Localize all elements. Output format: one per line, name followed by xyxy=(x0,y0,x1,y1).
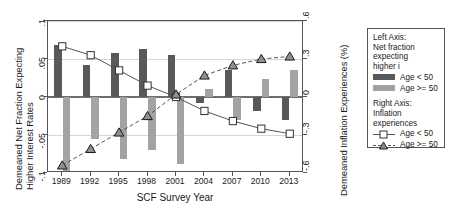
chart-figure: Demeaned Net Fraction Expecting Higher I… xyxy=(0,0,452,214)
y-tickmark-right-4 xyxy=(303,172,307,173)
y-tick-left-3: -.05 xyxy=(37,133,47,151)
x-tickmark-1995 xyxy=(118,172,119,176)
line-series-layer xyxy=(48,21,302,171)
x-tickmark-2007 xyxy=(232,172,233,176)
marker-square-1998 xyxy=(144,82,151,89)
y-axis-right-title: Demeaned Inflation Experiences (%) xyxy=(338,45,349,196)
legend-swatch-dark-gray xyxy=(373,74,395,80)
x-tickmark-2010 xyxy=(260,172,261,176)
y-tick-left-1: .05 xyxy=(37,57,47,75)
x-tickmark-1998 xyxy=(147,172,148,176)
marker-square-1995 xyxy=(116,67,123,74)
x-tickmark-2013 xyxy=(289,172,290,176)
x-axis-title: SCF Survey Year xyxy=(47,192,303,203)
x-tickmark-1989 xyxy=(61,172,62,176)
marker-square-2004 xyxy=(201,107,208,114)
y-axis-left-title: Demeaned Net Fraction Expecting Higher I… xyxy=(14,48,35,190)
marker-square-2007 xyxy=(229,117,236,124)
legend-item-line-old: Age >= 50 xyxy=(373,140,441,150)
legend-item-bar-young: Age < 50 xyxy=(373,72,441,82)
marker-triangle-2013 xyxy=(285,52,295,60)
y-tickmark-right-3 xyxy=(303,134,307,135)
legend-left-header: Left Axis: Net fraction expecting higher… xyxy=(373,33,441,71)
legend-right-header: Right Axis: Inflation experiences xyxy=(373,99,441,128)
marker-square-2013 xyxy=(286,130,293,137)
marker-triangle-2004 xyxy=(200,71,210,79)
marker-square-1992 xyxy=(87,52,94,59)
legend-swatch-light-gray xyxy=(373,85,395,91)
x-tick-2013: 2013 xyxy=(272,176,306,186)
legend-marker-triangle-dashed xyxy=(373,141,395,150)
plot-inner xyxy=(48,21,302,171)
y-tickmark-left-4 xyxy=(43,172,47,173)
y-tick-left-0: .1 xyxy=(37,19,47,37)
line-triangle xyxy=(62,56,290,165)
marker-triangle-1989 xyxy=(57,161,67,169)
y-tickmark-right-2 xyxy=(303,96,307,97)
y-tick-left-2: 0 xyxy=(37,95,47,113)
legend-item-bar-old: Age >= 50 xyxy=(373,83,441,93)
marker-square-2010 xyxy=(258,125,265,132)
y-tickmark-right-1 xyxy=(303,58,307,59)
marker-triangle-1998 xyxy=(143,111,153,119)
marker-square-1989 xyxy=(59,43,66,50)
legend-item-line-young: Age < 50 xyxy=(373,129,441,139)
x-tickmark-2004 xyxy=(203,172,204,176)
y-tick-right-0: .6 xyxy=(301,1,311,19)
x-tickmark-2001 xyxy=(175,172,176,176)
y-tickmark-right-0 xyxy=(303,20,307,21)
plot-area xyxy=(47,20,303,172)
legend-marker-square-solid xyxy=(373,130,395,139)
chart-legend: Left Axis: Net fraction expecting higher… xyxy=(367,28,445,148)
x-tickmark-1992 xyxy=(90,172,91,176)
marker-triangle-1995 xyxy=(114,128,124,136)
marker-triangle-1992 xyxy=(86,144,96,152)
